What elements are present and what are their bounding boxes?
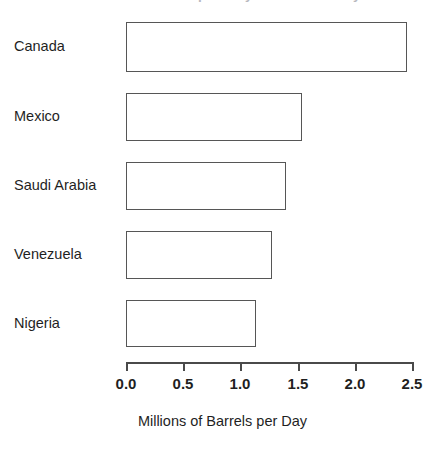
bar-canada bbox=[126, 22, 407, 72]
x-axis-line bbox=[126, 362, 413, 364]
category-label-3: Venezuela bbox=[14, 247, 126, 263]
x-tick-label-5: 2.5 bbox=[387, 375, 437, 392]
x-tick-label-1: 0.5 bbox=[158, 375, 208, 392]
category-label-text: Nigeria bbox=[14, 316, 126, 331]
category-label-text: Venezuela bbox=[14, 247, 126, 262]
x-axis-title: Millions of Barrels per Day bbox=[0, 413, 445, 429]
bar-chart: U.S. Crude Oil Imports by Source Country… bbox=[0, 0, 445, 456]
category-label-text: Saudi Arabia bbox=[14, 178, 126, 193]
category-label-text: Mexico bbox=[14, 109, 126, 124]
category-label-0: Canada bbox=[14, 39, 126, 55]
x-axis-tick-2 bbox=[240, 362, 242, 371]
bar-saudi-arabia bbox=[126, 162, 286, 210]
category-label-2: Saudi Arabia bbox=[14, 178, 126, 194]
category-label-text: Canada bbox=[14, 39, 126, 54]
x-axis-tick-0 bbox=[126, 362, 128, 371]
x-axis-tick-1 bbox=[183, 362, 185, 371]
plot-area: Canada Mexico Saudi Arabia Venezuela Nig… bbox=[0, 0, 445, 456]
x-axis-tick-4 bbox=[355, 362, 357, 371]
x-tick-label-0: 0.0 bbox=[101, 375, 151, 392]
x-axis-tick-3 bbox=[298, 362, 300, 371]
bar-mexico bbox=[126, 93, 302, 141]
x-axis-tick-5 bbox=[412, 362, 414, 371]
bar-venezuela bbox=[126, 231, 272, 279]
x-tick-label-3: 1.5 bbox=[273, 375, 323, 392]
x-tick-label-4: 2.0 bbox=[330, 375, 380, 392]
bar-nigeria bbox=[126, 300, 256, 347]
category-label-4: Nigeria bbox=[14, 316, 126, 332]
category-label-1: Mexico bbox=[14, 109, 126, 125]
x-tick-label-2: 1.0 bbox=[215, 375, 265, 392]
